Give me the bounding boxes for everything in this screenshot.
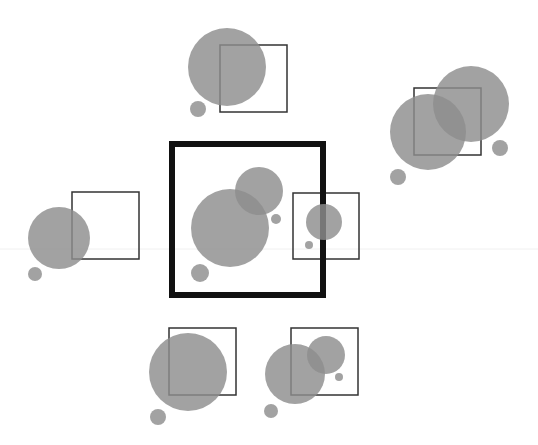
circle-center-3 — [191, 264, 209, 282]
circle-top-right-1 — [390, 94, 466, 170]
circle-center-1 — [235, 167, 283, 215]
circle-bottom-left-0 — [149, 333, 227, 411]
circle-top-right-2 — [492, 140, 508, 156]
circle-bottom-right-1 — [307, 336, 345, 374]
diagram-canvas — [0, 0, 538, 445]
circle-left-0 — [28, 207, 90, 269]
circle-bottom-right-3 — [264, 404, 278, 418]
circle-top-0 — [188, 28, 266, 106]
circle-top-1 — [190, 101, 206, 117]
circle-left-1 — [28, 267, 42, 281]
circle-center-2 — [271, 214, 281, 224]
circle-bottom-left-1 — [150, 409, 166, 425]
circle-right-0 — [306, 204, 342, 240]
circle-bottom-right-2 — [335, 373, 343, 381]
circles-layer — [28, 28, 509, 425]
circle-right-1 — [305, 241, 313, 249]
circle-top-right-3 — [390, 169, 406, 185]
